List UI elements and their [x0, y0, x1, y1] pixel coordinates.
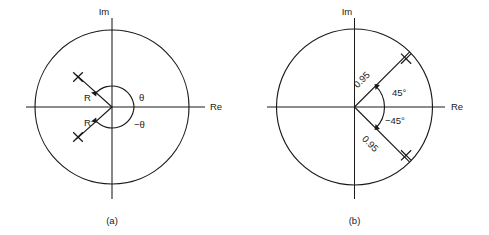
panel-caption-a: (a) — [106, 215, 118, 226]
pole-marker-lower — [73, 132, 83, 142]
angle-arrowhead-lower — [91, 117, 97, 122]
angle-label-upper: 45° — [392, 87, 407, 98]
panel-caption-b: (b) — [349, 215, 361, 226]
angle-arc-upper — [96, 86, 134, 107]
imaginary-axis-label: Im — [99, 6, 110, 17]
real-axis-label: Re — [451, 101, 463, 112]
angle-label-lower: −θ — [134, 119, 145, 130]
panel-b: Im Re 0.95 0.95 45° −45° (b) — [245, 0, 489, 235]
angle-arc-lower — [376, 107, 385, 128]
angle-arc-lower — [96, 107, 134, 128]
panel-a: Im Re R R θ −θ (a) — [0, 0, 245, 235]
angle-arrowhead-upper — [91, 91, 97, 96]
real-axis-label: Re — [210, 101, 222, 112]
radius-label-lower: R — [84, 117, 91, 128]
imaginary-axis-label: Im — [342, 6, 353, 17]
angle-label-upper: θ — [139, 92, 144, 103]
angle-label-lower: −45° — [385, 115, 405, 126]
pole-ray-lower — [76, 107, 112, 139]
radius-label-lower: 0.95 — [360, 133, 381, 154]
angle-arc-upper — [376, 86, 385, 107]
radius-label-upper: R — [84, 92, 91, 103]
pole-ray-upper — [76, 75, 112, 107]
pole-marker-upper — [73, 72, 83, 82]
figure-z-plane-pole-diagrams: Im Re R R θ −θ (a) — [0, 0, 489, 235]
